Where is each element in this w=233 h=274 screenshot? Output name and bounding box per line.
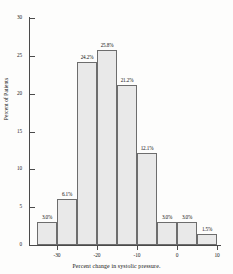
histogram-bar <box>77 62 97 245</box>
y-tick-label: 0 <box>4 242 22 247</box>
bar-value-label: 3.0% <box>35 215 59 221</box>
y-tick-mark <box>29 245 35 246</box>
x-tick-label: -30 <box>47 252 67 258</box>
bar-value-label: 1.5% <box>195 227 219 233</box>
y-tick-label: 5 <box>4 204 22 209</box>
y-tick-label: 25 <box>4 53 22 58</box>
y-tick-label: 10 <box>4 166 22 171</box>
x-tick-label: -10 <box>127 252 147 258</box>
histogram-figure: Percent of Patients 051015202530 3.0%6.1… <box>0 0 233 274</box>
y-tick-label: 15 <box>4 129 22 134</box>
histogram-bar <box>57 199 77 245</box>
x-tick-label: -20 <box>87 252 107 258</box>
bar-value-label: 25.8% <box>95 43 119 49</box>
x-tick-mark <box>57 245 58 250</box>
x-tick-mark <box>217 245 218 250</box>
x-tick-mark <box>177 245 178 250</box>
bar-value-label: 6.1% <box>55 192 79 198</box>
histogram-bar <box>137 153 157 245</box>
bar-value-label: 3.0% <box>175 215 199 221</box>
y-tick-label: 20 <box>4 91 22 96</box>
histogram-bar <box>97 50 117 245</box>
bar-value-label: 21.2% <box>115 78 139 84</box>
bar-value-label: 12.1% <box>135 146 159 152</box>
histogram-bar <box>157 222 177 245</box>
x-tick-label: 10 <box>207 252 227 258</box>
x-tick-label: 0 <box>167 252 187 258</box>
histogram-bar <box>117 85 137 245</box>
x-tick-mark <box>97 245 98 250</box>
histogram-bar <box>197 234 217 245</box>
x-axis-title: Percent change in systolic pressure. <box>0 263 233 270</box>
plot-area: 3.0%6.1%24.2%25.8%21.2%12.1%3.0%3.0%1.5% <box>29 14 225 245</box>
histogram-bar <box>177 222 197 245</box>
bar-value-label: 24.2% <box>75 55 99 61</box>
histogram-bar <box>37 222 57 245</box>
x-tick-mark <box>137 245 138 250</box>
y-tick-label: 30 <box>4 15 22 20</box>
